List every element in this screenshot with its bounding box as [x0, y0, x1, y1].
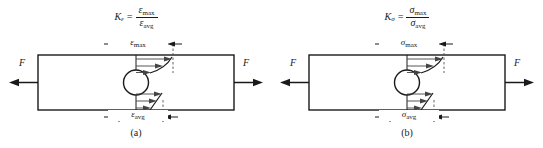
equals-sign-a: = [126, 11, 133, 22]
max-label-subscript-a: max [134, 41, 146, 49]
caption-panel-a: (a) [0, 128, 272, 138]
panel-b: Kσ = σmax σavg σmax σavg F F (b) [271, 0, 543, 148]
force-label-left-a: F [19, 58, 25, 68]
factor-subscript-a: ε [121, 15, 124, 23]
force-arrow-left [280, 79, 309, 86]
avg-dimension-label-a: εavg [108, 110, 168, 121]
force-arrow-right [234, 79, 263, 86]
formula-panel-a: Kε = εmax εavg [0, 5, 272, 30]
avg-dimension-label-b: σavg [379, 110, 439, 121]
formula-denominator-a: εavg [136, 18, 158, 30]
equals-sign-b: = [397, 11, 404, 22]
stress-concentration-figure: Kε = εmax εavg εmax εavg F F (a) [0, 0, 543, 148]
denominator-subscript-a: avg [144, 22, 154, 30]
force-label-right-a: F [243, 58, 249, 68]
force-label-right-b: F [514, 58, 520, 68]
numerator-subscript-a: max [143, 9, 155, 17]
max-dimension-label-b: σmax [379, 38, 439, 49]
max-label-subscript-b: max [405, 41, 417, 49]
avg-label-subscript-a: avg [135, 113, 145, 121]
force-arrow-left [9, 79, 38, 86]
force-label-left-b: F [290, 58, 296, 68]
force-arrow-right [505, 79, 534, 86]
formula-denominator-b: σavg [406, 18, 429, 30]
factor-subscript-b: σ [391, 15, 394, 23]
numerator-subscript-b: max [414, 9, 426, 17]
avg-label-subscript-b: avg [406, 113, 416, 121]
formula-fraction-b: σmax σavg [406, 5, 429, 30]
formula-panel-b: Kσ = σmax σavg [271, 5, 543, 30]
denominator-subscript-b: avg [415, 22, 425, 30]
max-dimension-label-a: εmax [108, 38, 168, 49]
formula-fraction-a: εmax εavg [136, 5, 158, 30]
caption-panel-b: (b) [271, 128, 543, 138]
panel-a: Kε = εmax εavg εmax εavg F F (a) [0, 0, 272, 148]
